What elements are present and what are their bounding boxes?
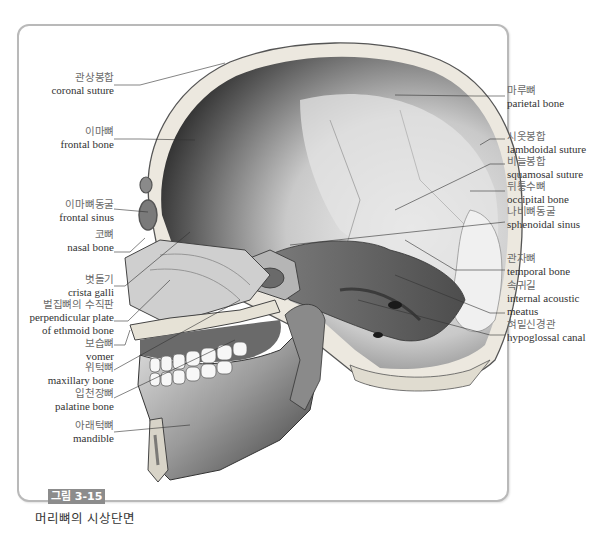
label-coronal-suture: 관상봉합 coronal suture (51, 71, 114, 97)
label-frontal-sinus: 이마뼈동굴 frontal sinus (59, 198, 114, 224)
label-occipital-bone: 뒤통수뼈 occipital bone (507, 180, 569, 206)
label-crista-galli: 볏돌기 crista galli (68, 273, 114, 299)
label-palatine-bone: 입천장뼈 palatine bone (55, 387, 114, 413)
figure-number-badge: 그림 3-15 (48, 489, 105, 504)
label-hypoglossal-canal: 혀밑신경관 hypoglossal canal (507, 318, 586, 344)
label-mandible: 아래턱뼈 mandible (73, 419, 114, 445)
figure-caption: 머리뼈의 시상단면 (35, 508, 135, 527)
label-sphenoidal-sinus: 나비뼈동굴 sphenoidal sinus (507, 205, 580, 231)
label-squamosal-suture: 비늘봉합 squamosal suture (507, 155, 583, 181)
label-internal-acoustic-meatus: 속귀길 internal acoustic meatus (507, 279, 579, 318)
label-nasal-bone: 코뼈 nasal bone (67, 228, 114, 254)
label-temporal-bone: 관자뼈 temporal bone (507, 252, 570, 278)
label-maxillary-bone: 위턱뼈 maxillary bone (48, 361, 114, 387)
label-lambdoidal-suture: 시옷봉합 lambdoidal suture (507, 130, 586, 156)
label-frontal-bone: 이마뼈 frontal bone (61, 125, 114, 151)
label-perpendicular-plate: 벌집뼈의 수직판 perpendicular plate of ethmoid … (29, 298, 114, 337)
label-parietal-bone: 마루뼈 parietal bone (507, 84, 564, 110)
label-vomer: 보습뼈 vomer (85, 337, 114, 363)
